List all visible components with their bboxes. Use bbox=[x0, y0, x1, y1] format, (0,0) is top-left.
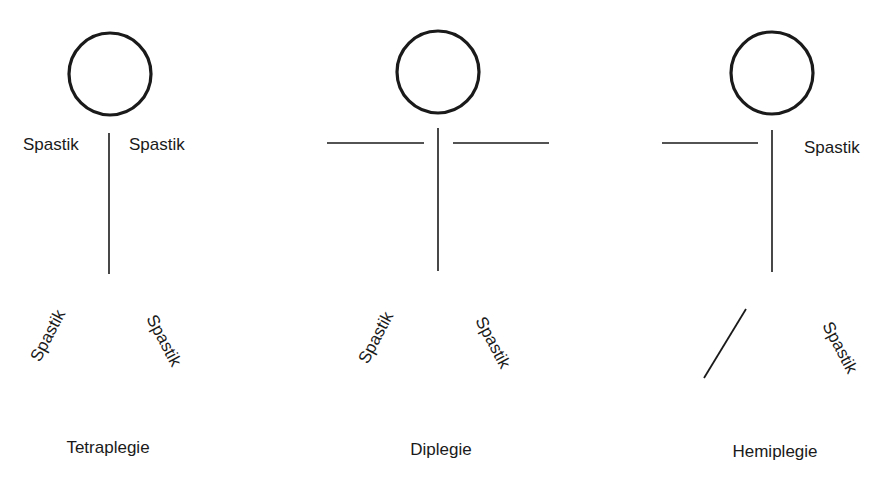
hemiplegie-caption: Hemiplegie bbox=[732, 443, 817, 460]
tetraplegie-arm-right-label: Spastik bbox=[129, 136, 185, 153]
figure-diplegie bbox=[327, 31, 549, 271]
tetraplegie-caption: Tetraplegie bbox=[66, 439, 149, 456]
head-circle bbox=[69, 33, 151, 115]
diagram-canvas bbox=[0, 0, 889, 483]
diplegie-caption: Diplegie bbox=[410, 441, 471, 458]
head-circle bbox=[397, 31, 479, 113]
leg-left-line bbox=[704, 309, 746, 378]
head-circle bbox=[731, 32, 813, 114]
hemiplegie-arm-right-label: Spastik bbox=[804, 139, 860, 156]
figure-hemiplegie bbox=[662, 32, 813, 378]
tetraplegie-arm-left-label: Spastik bbox=[23, 136, 79, 153]
